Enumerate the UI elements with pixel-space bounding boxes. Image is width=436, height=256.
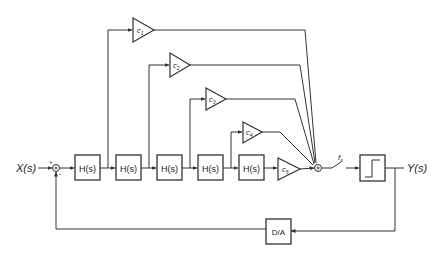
h-block-5: H(s) (239, 155, 264, 180)
sigma-delta-block-diagram: X(s) + - H(s) H(s) H(s) H(s) H(s) c5 (0, 0, 436, 256)
gain-c3: c3 (206, 88, 226, 110)
svg-text:H(s): H(s) (243, 164, 260, 174)
gain-c1: c1 (133, 18, 154, 42)
sum-plus-sign: + (49, 159, 53, 165)
svg-text:H(s): H(s) (161, 164, 178, 174)
h-block-4: H(s) (198, 155, 223, 180)
tap-c1-line (108, 30, 132, 168)
tap-c2-line (149, 65, 169, 168)
input-label: X(s) (15, 162, 37, 174)
sampler-switch (332, 162, 341, 168)
svg-text:H(s): H(s) (202, 164, 219, 174)
svg-text:H(s): H(s) (79, 164, 96, 174)
dac-block: D/A (266, 219, 291, 244)
output-label: Y(s) (407, 162, 428, 174)
output-sum-junction (315, 165, 322, 172)
gain-c5: c5 (278, 158, 300, 180)
gain-c4: c4 (243, 122, 262, 143)
h-block-3: H(s) (157, 155, 182, 180)
c4-to-sum (262, 132, 313, 165)
sampler-label: fs (338, 153, 343, 163)
h-block-1: H(s) (75, 155, 100, 180)
h-block-2: H(s) (116, 155, 141, 180)
svg-text:D/A: D/A (272, 228, 286, 237)
sum-minus-sign: - (59, 170, 62, 177)
svg-text:H(s): H(s) (120, 164, 137, 174)
quantizer-block (360, 155, 385, 181)
gain-c2: c2 (170, 53, 190, 77)
